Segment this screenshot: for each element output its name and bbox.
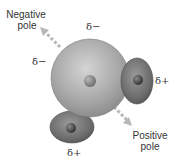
positive-pole-arrow-icon (114, 107, 132, 126)
partial-positive-charge-bottom: δ+ (67, 148, 81, 158)
partial-negative-charge-left: δ− (32, 57, 46, 67)
hydrogen-nucleus-bottom (66, 123, 76, 133)
hydrogen-atom-right (121, 58, 153, 104)
partial-negative-charge-top: δ− (86, 22, 100, 32)
partial-positive-charge-right: δ+ (155, 76, 169, 86)
negative-pole-label: Negative pole (4, 9, 48, 31)
oxygen-atom (51, 39, 129, 117)
oxygen-nucleus (84, 75, 96, 87)
positive-pole-label: Positive pole (128, 130, 172, 152)
hydrogen-nucleus-right (133, 75, 143, 85)
